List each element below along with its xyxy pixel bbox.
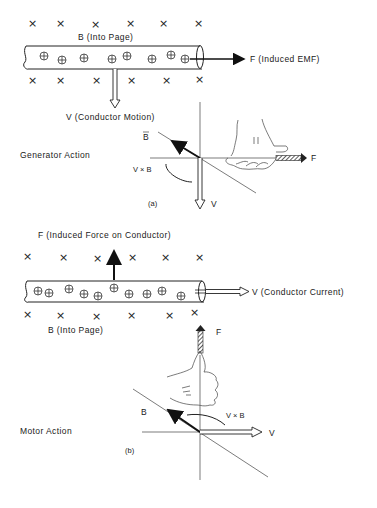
right-hand-fist-icon bbox=[226, 119, 288, 169]
field-into-page-icon: × bbox=[56, 17, 65, 30]
field-into-page-icon: × bbox=[92, 310, 101, 323]
field-into-page-icon: × bbox=[195, 73, 204, 86]
force-hatched-arrow bbox=[198, 331, 203, 353]
field-into-page-icon: × bbox=[56, 309, 65, 322]
f-vector-label: F bbox=[311, 153, 317, 163]
charges bbox=[40, 51, 189, 64]
field-into-page-icon: × bbox=[127, 309, 136, 322]
v-vector-arrow bbox=[200, 427, 262, 437]
field-into-page-icon: × bbox=[28, 74, 37, 87]
field-into-page-icon: × bbox=[161, 251, 170, 264]
v-vector-label: V bbox=[269, 428, 275, 438]
field-into-page-icon: × bbox=[23, 250, 32, 263]
conductor-current-arrow bbox=[206, 287, 249, 296]
caption-b: (b) bbox=[125, 446, 135, 455]
b-vector-label: B bbox=[143, 132, 149, 142]
v-vector-arrow bbox=[195, 158, 205, 209]
v-vector-label: V bbox=[211, 199, 217, 209]
b-vector-arrow bbox=[172, 141, 200, 158]
field-marks-top: × × × × × × bbox=[28, 17, 203, 31]
force-hatched-arrow bbox=[276, 156, 301, 161]
v-cross-b-label: V × B bbox=[133, 165, 152, 174]
conductor-motion-label: V (Conductor Motion) bbox=[66, 112, 155, 122]
field-into-page-icon: × bbox=[128, 251, 137, 264]
conductor-motion-arrow bbox=[110, 69, 120, 108]
field-into-page-icon: × bbox=[91, 18, 100, 31]
motor-panel: F (Induced Force on Conductor) × × × × ×… bbox=[20, 230, 344, 480]
f-vector-label: F bbox=[216, 327, 222, 337]
field-into-page-icon: × bbox=[190, 306, 199, 319]
right-hand-thumbs-up-icon bbox=[167, 351, 218, 406]
b-vector-label: B bbox=[141, 407, 147, 417]
generator-panel: × × × × × × B (Into Page) F (Ind bbox=[20, 17, 320, 209]
induced-emf-label: F (Induced EMF) bbox=[250, 54, 320, 64]
electromagnetic-action-diagram: × × × × × × B (Into Page) F (Ind bbox=[0, 0, 377, 508]
field-into-page-icon: × bbox=[195, 251, 204, 264]
b-vector-arrow bbox=[168, 410, 200, 432]
field-into-page-icon: × bbox=[126, 17, 135, 30]
rotation-arc bbox=[166, 164, 192, 182]
conductor-rod bbox=[24, 46, 204, 70]
field-into-page-icon: × bbox=[159, 17, 168, 30]
field-into-page-icon: × bbox=[162, 74, 171, 87]
field-into-page-icon: × bbox=[28, 17, 37, 30]
conductor-current-label: V (Conductor Current) bbox=[252, 287, 344, 297]
field-into-page-icon: × bbox=[127, 74, 136, 87]
motor-action-label: Motor Action bbox=[20, 426, 72, 436]
caption-a: (a) bbox=[148, 199, 158, 208]
field-into-page-icon: × bbox=[23, 308, 32, 321]
rotation-arc bbox=[187, 414, 225, 425]
v-cross-b-label: V × B bbox=[226, 411, 245, 420]
charges bbox=[34, 284, 185, 300]
field-into-page-icon: × bbox=[92, 74, 101, 87]
field-label: B (Into Page) bbox=[78, 32, 133, 42]
field-into-page-icon: × bbox=[194, 17, 203, 30]
field-into-page-icon: × bbox=[56, 74, 65, 87]
field-into-page-icon: × bbox=[93, 252, 102, 265]
generator-action-label: Generator Action bbox=[20, 150, 90, 160]
field-marks-bottom: × × × × × × bbox=[23, 306, 199, 323]
field-into-page-icon: × bbox=[165, 309, 174, 322]
induced-force-label: F (Induced Force on Conductor) bbox=[38, 230, 171, 240]
field-label: B (Into Page) bbox=[48, 325, 103, 335]
field-into-page-icon: × bbox=[59, 251, 68, 264]
